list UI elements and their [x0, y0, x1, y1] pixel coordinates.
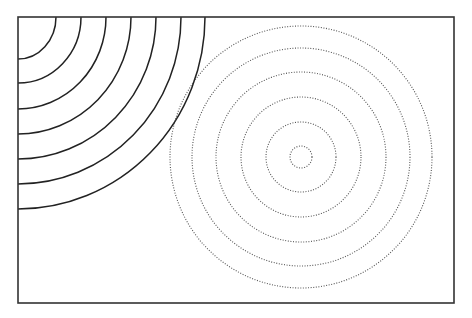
- solid-arc: [0, 0, 181, 184]
- dotted-circle: [266, 122, 336, 192]
- concentric-rings-diagram: [0, 0, 472, 318]
- dotted-circle: [192, 48, 410, 266]
- dotted-circle: [290, 146, 312, 168]
- dotted-circle: [170, 26, 432, 288]
- solid-arc: [0, 0, 81, 83]
- solid-quarter-arcs: [0, 0, 205, 209]
- solid-arc: [0, 0, 131, 134]
- dotted-concentric-circles: [170, 26, 432, 288]
- dotted-circle: [241, 97, 361, 217]
- solid-arc: [0, 0, 205, 209]
- solid-arc: [0, 0, 56, 59]
